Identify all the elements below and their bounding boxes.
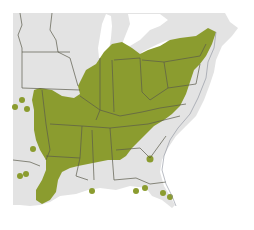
range-map — [0, 0, 254, 230]
